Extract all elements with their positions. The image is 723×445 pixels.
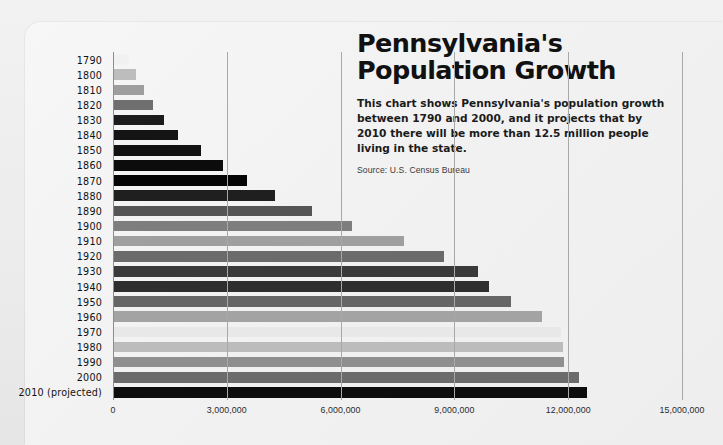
x-axis-tick-label: 3,000,000 — [207, 405, 247, 415]
gridline — [568, 52, 569, 400]
bar-1810 — [113, 85, 144, 96]
y-axis-tick-label: 1970 — [77, 326, 102, 337]
y-axis-tick-label: 1920 — [77, 251, 102, 262]
bar-1960 — [113, 311, 542, 322]
y-axis-tick-label: 1900 — [77, 221, 102, 232]
y-axis-tick-label: 1820 — [77, 99, 102, 110]
bar-1860 — [113, 160, 223, 171]
bar-row — [113, 236, 682, 247]
bar-row — [113, 221, 682, 232]
bar-1930 — [113, 266, 478, 277]
bar-1840 — [113, 130, 178, 141]
bar-row — [113, 69, 682, 80]
gridline — [341, 52, 342, 400]
bar-row — [113, 130, 682, 141]
y-axis-tick-label: 1950 — [77, 296, 102, 307]
x-axis-tick-label: 12,000,000 — [546, 405, 591, 415]
bar-row — [113, 251, 682, 262]
bar-row — [113, 190, 682, 201]
bar-1800 — [113, 69, 136, 80]
bar-row — [113, 357, 682, 368]
y-axis-tick-label: 1810 — [77, 84, 102, 95]
bar-1920 — [113, 251, 444, 262]
bar-1940 — [113, 281, 489, 292]
bar-1950 — [113, 296, 511, 307]
y-axis-tick-label: 1890 — [77, 205, 102, 216]
chart-screenshot: Pennsylvania's Population Growth This ch… — [0, 0, 723, 445]
bar-2010-projected- — [113, 387, 587, 398]
bar-1990 — [113, 357, 564, 368]
bar-row — [113, 281, 682, 292]
bar-1830 — [113, 115, 164, 126]
gridline — [682, 52, 683, 400]
bar-row — [113, 266, 682, 277]
bar-rows — [113, 52, 682, 400]
bar-1820 — [113, 100, 153, 111]
bar-row — [113, 145, 682, 156]
x-axis-tick-label: 9,000,000 — [434, 405, 474, 415]
x-axis-tick-label: 6,000,000 — [321, 405, 361, 415]
x-axis-labels: 03,000,0006,000,0009,000,00012,000,00015… — [0, 405, 723, 423]
y-axis-tick-label: 1910 — [77, 236, 102, 247]
y-axis-tick-label: 1830 — [77, 115, 102, 126]
bar-2000 — [113, 372, 579, 383]
bar-1850 — [113, 145, 201, 156]
bar-row — [113, 296, 682, 307]
y-axis-tick-label: 1860 — [77, 160, 102, 171]
bar-row — [113, 311, 682, 322]
gridline — [454, 52, 455, 400]
y-axis-tick-label: 1850 — [77, 145, 102, 156]
y-axis-tick-label: 1870 — [77, 175, 102, 186]
y-axis-tick-label: 1880 — [77, 190, 102, 201]
bar-1890 — [113, 206, 312, 217]
y-axis-labels: 1790180018101820183018401850186018701880… — [0, 52, 108, 400]
bar-row — [113, 85, 682, 96]
bar-1980 — [113, 342, 563, 353]
x-axis-tick-label: 0 — [111, 405, 116, 415]
bar-row — [113, 54, 682, 65]
y-axis-tick-label: 1990 — [77, 357, 102, 368]
y-axis-tick-label: 1800 — [77, 69, 102, 80]
gridline — [227, 52, 228, 400]
bar-row — [113, 206, 682, 217]
y-axis-tick-label: 2010 (projected) — [19, 387, 102, 398]
bar-row — [113, 100, 682, 111]
y-axis-tick-label: 2000 — [77, 372, 102, 383]
y-axis-tick-label: 1930 — [77, 266, 102, 277]
y-axis-tick-label: 1940 — [77, 281, 102, 292]
bar-row — [113, 175, 682, 186]
bar-1880 — [113, 190, 275, 201]
axis-line-zero — [113, 52, 114, 400]
bar-1970 — [113, 327, 561, 338]
bar-row — [113, 372, 682, 383]
bar-row — [113, 342, 682, 353]
y-axis-tick-label: 1980 — [77, 342, 102, 353]
x-axis-tick-label: 15,000,000 — [659, 405, 704, 415]
bar-row — [113, 327, 682, 338]
y-axis-tick-label: 1790 — [77, 54, 102, 65]
y-axis-tick-label: 1960 — [77, 311, 102, 322]
plot-area — [113, 52, 682, 400]
bar-1910 — [113, 236, 404, 247]
bar-row — [113, 387, 682, 398]
bar-1790 — [113, 54, 129, 65]
bar-row — [113, 160, 682, 171]
y-axis-tick-label: 1840 — [77, 130, 102, 141]
bar-1900 — [113, 221, 352, 232]
bar-row — [113, 115, 682, 126]
